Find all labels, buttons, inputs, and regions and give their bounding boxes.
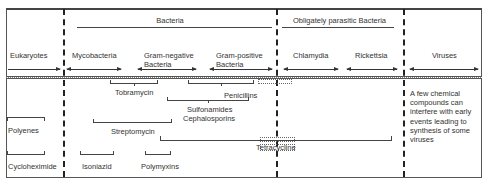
bracket-cycloheximide xyxy=(7,151,45,155)
bracket-penicillins xyxy=(188,80,254,84)
tetracycline-dotted-box-top xyxy=(260,137,295,142)
column-label-eukaryotes: Eukaryotes xyxy=(10,51,48,60)
drug-label-polyenes: Polyenes xyxy=(8,126,39,135)
bracket-sulfonamides-cephalosporins xyxy=(167,97,249,101)
group-line-bacteria xyxy=(77,27,272,28)
group-label-obligately-parasitic: Obligately parasitic Bacteria xyxy=(282,16,397,25)
arrow-chlamydia xyxy=(284,69,338,70)
gram-negative-line1: Gram-negative xyxy=(144,51,194,60)
tetracycline-right-tick xyxy=(391,136,392,140)
column-label-gram-negative: Gram-negative Bacteria xyxy=(144,51,194,69)
arrow-gram-negative xyxy=(138,69,196,70)
drug-label-cephalosporins: Cephalosporins xyxy=(183,114,235,123)
bracket-tobramycin xyxy=(110,80,158,84)
bracket-polyenes xyxy=(7,117,45,121)
column-label-chlamydia: Chlamydia xyxy=(293,51,328,60)
virus-note: A few chemical compounds can interfere w… xyxy=(410,89,480,144)
group-line-obligately-parasitic xyxy=(282,27,394,28)
drug-label-polymyxins: Polymyxins xyxy=(141,162,179,171)
bracket-polymyxins xyxy=(145,151,171,155)
drug-label-isoniazid: Isoniazid xyxy=(82,162,112,171)
arrow-rickettsia xyxy=(347,69,397,70)
bracket-isoniazid xyxy=(80,151,114,155)
penicillins-dotted-extension xyxy=(258,79,292,84)
gram-positive-line1: Gram-positive xyxy=(216,51,263,60)
drug-label-tetracycline: Tetracycline xyxy=(256,143,296,152)
arrow-viruses xyxy=(410,69,478,70)
arrow-gram-positive xyxy=(210,69,272,70)
divider-obligate-viruses xyxy=(403,9,405,177)
gram-negative-line2: Bacteria xyxy=(144,60,194,69)
drug-label-cycloheximide: Cycloheximide xyxy=(8,162,57,171)
column-label-mycobacteria: Mycobacteria xyxy=(72,51,117,60)
drug-label-sulfonamides: Sulfonamides xyxy=(187,105,232,114)
gram-positive-line2: Bacteria xyxy=(216,60,263,69)
arrow-eukaryotes xyxy=(8,69,60,70)
tetracycline-left-tick xyxy=(160,136,161,140)
drug-label-tobramycin: Tobramycin xyxy=(115,88,153,97)
divider-eukaryotes-bacteria xyxy=(63,9,65,177)
arrow-mycobacteria xyxy=(67,69,121,70)
column-label-rickettsia: Rickettsia xyxy=(355,51,388,60)
column-label-viruses: Viruses xyxy=(432,51,457,60)
bracket-streptomycin xyxy=(93,119,172,123)
group-label-bacteria: Bacteria xyxy=(140,16,200,25)
drug-label-streptomycin: Streptomycin xyxy=(111,127,155,136)
column-label-gram-positive: Gram-positive Bacteria xyxy=(216,51,263,69)
separator-band xyxy=(6,76,482,79)
